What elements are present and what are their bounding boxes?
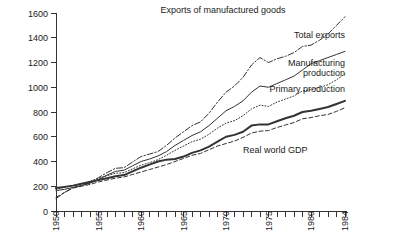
series-label-manufacturing-production: Manufacturing: [288, 58, 345, 68]
y-axis-tick-label: 400: [33, 157, 48, 167]
series-label-real-world-gdp: Real world GDP: [243, 145, 308, 155]
y-axis-tick-label: 800: [33, 108, 48, 118]
y-axis-tick-label: 1000: [28, 83, 48, 93]
y-axis-tick-label: 600: [33, 132, 48, 142]
series-label-manufacturing-production: production: [303, 68, 345, 78]
series-label-exports-of-manufactured-goods: Exports of manufactured goods: [160, 5, 286, 15]
series-lines: [56, 17, 345, 199]
series-label-total-exports: Total exports: [294, 30, 346, 40]
x-axis-tick-label: 1965: [179, 211, 189, 231]
y-axis-tick-label: 1400: [28, 33, 48, 43]
x-axis-tick-label: 1975: [264, 211, 274, 231]
line-chart: 02004006008001000120014001600 1950195519…: [0, 0, 412, 251]
y-axis-tick-label: 1200: [28, 58, 48, 68]
series-line-exports-of-manufactured-goods: [56, 17, 345, 199]
y-axis: 02004006008001000120014001600: [28, 9, 56, 217]
chart-canvas: 02004006008001000120014001600 1950195519…: [0, 0, 412, 251]
y-axis-tick-label: 200: [33, 182, 48, 192]
y-axis-tick-label: 1600: [28, 9, 48, 19]
x-axis-tick-label: 1950: [51, 211, 61, 231]
x-axis-tick-label: 1960: [136, 211, 146, 231]
series-label-primary-production: Primary production: [269, 84, 345, 94]
x-axis-tick-label: 1970: [221, 211, 231, 231]
x-axis: 19501955196019651970197519801984: [51, 211, 350, 231]
x-axis-tick-label: 1984: [340, 211, 350, 231]
series-line-total-exports: [56, 51, 345, 190]
x-axis-tick-label: 1955: [94, 211, 104, 231]
y-axis-tick-label: 0: [43, 207, 48, 217]
x-axis-tick-label: 1980: [306, 211, 316, 231]
